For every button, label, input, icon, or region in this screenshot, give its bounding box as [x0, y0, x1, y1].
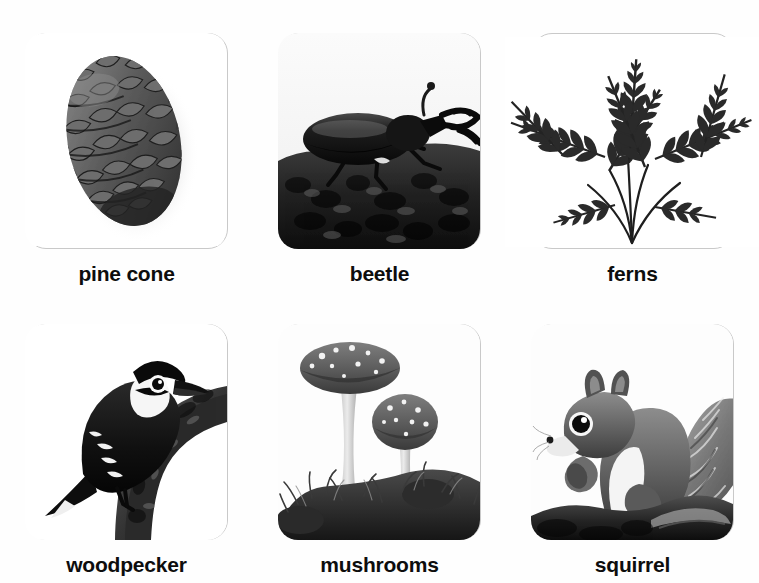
picture-card-pine-cone[interactable]	[26, 33, 228, 249]
ferns-image	[505, 37, 759, 247]
card-cell-woodpecker[interactable]: woodpecker	[0, 291, 253, 582]
card-label-ferns: ferns	[607, 263, 657, 284]
beetle-image-clip	[278, 33, 480, 249]
card-cell-ferns[interactable]: ferns	[506, 0, 759, 291]
pine-cone-image	[25, 33, 224, 246]
card-grid: pine cone	[0, 0, 759, 583]
card-label-mushrooms: mushrooms	[320, 554, 438, 575]
card-cell-squirrel[interactable]: squirrel	[506, 291, 759, 582]
woodpecker-image-clip	[25, 324, 227, 540]
picture-card-squirrel[interactable]	[532, 324, 734, 540]
beetle-image	[278, 33, 480, 249]
ferns-image-clip	[531, 33, 733, 249]
card-label-squirrel: squirrel	[595, 554, 670, 575]
card-label-beetle: beetle	[350, 263, 410, 284]
card-label-woodpecker: woodpecker	[66, 554, 187, 575]
card-cell-beetle[interactable]: beetle	[253, 0, 506, 291]
squirrel-image-clip	[531, 324, 733, 540]
picture-card-ferns[interactable]	[532, 33, 734, 249]
woodpecker-image	[25, 324, 227, 540]
card-label-pine-cone: pine cone	[78, 263, 174, 284]
mushrooms-image-clip	[278, 324, 480, 540]
card-cell-pine-cone[interactable]: pine cone	[0, 0, 253, 291]
picture-card-woodpecker[interactable]	[26, 324, 228, 540]
mushrooms-image	[278, 324, 480, 540]
picture-card-beetle[interactable]	[279, 33, 481, 249]
picture-card-board: pine cone	[0, 0, 759, 583]
squirrel-image	[531, 324, 733, 540]
picture-card-mushrooms[interactable]	[279, 324, 481, 540]
pine-cone-image-clip	[25, 33, 227, 249]
card-cell-mushrooms[interactable]: mushrooms	[253, 291, 506, 582]
